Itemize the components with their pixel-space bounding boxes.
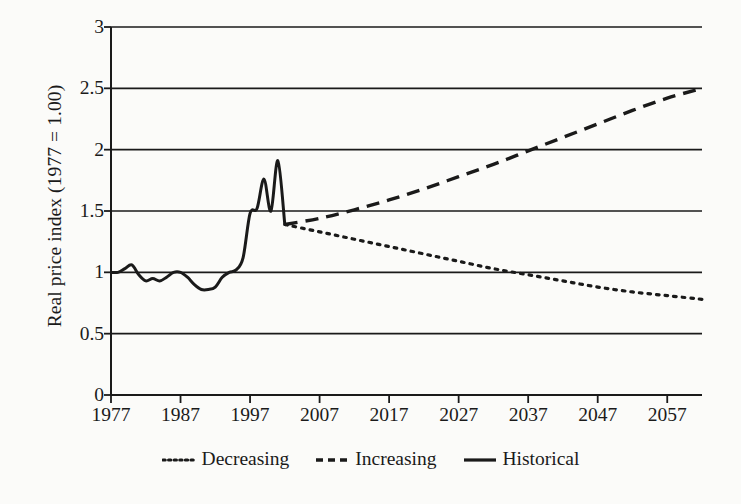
legend-swatch-dotted [162, 452, 196, 466]
legend-item-decreasing: Decreasing [162, 448, 290, 470]
legend-swatch-solid [463, 452, 497, 466]
chart-legend: DecreasingIncreasingHistorical [0, 448, 741, 470]
x-tick-label: 2007 [280, 404, 360, 426]
x-tick-label: 2037 [488, 404, 568, 426]
x-tick-label: 2047 [558, 404, 638, 426]
x-tick-label: 1977 [71, 404, 151, 426]
x-axis-tick-labels: 197719871997200720172027203720472057 [0, 0, 741, 504]
legend-item-historical: Historical [463, 448, 580, 470]
x-tick-label: 2017 [349, 404, 429, 426]
legend-label: Historical [503, 448, 580, 470]
legend-label: Decreasing [202, 448, 290, 470]
x-tick-label: 1997 [210, 404, 290, 426]
x-tick-label: 1987 [141, 404, 221, 426]
x-tick-label: 2057 [627, 404, 707, 426]
legend-item-increasing: Increasing [315, 448, 436, 470]
legend-label: Increasing [355, 448, 436, 470]
chart-figure: Real price index (1977 = 1.00) 00.511.52… [0, 0, 741, 504]
legend-swatch-dashed [315, 452, 349, 466]
x-tick-label: 2027 [419, 404, 499, 426]
